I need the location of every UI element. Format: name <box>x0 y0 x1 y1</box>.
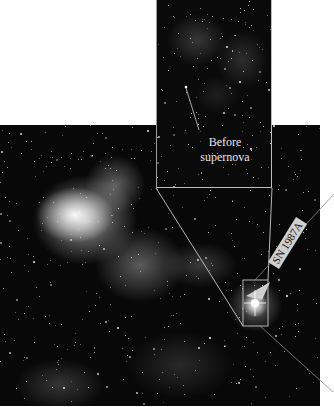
star <box>258 80 259 81</box>
star <box>281 334 282 335</box>
star <box>49 323 50 324</box>
star <box>278 279 280 281</box>
star <box>61 358 62 359</box>
star <box>191 113 192 114</box>
star <box>110 287 111 288</box>
star <box>26 357 28 359</box>
star <box>231 233 232 234</box>
star <box>204 83 205 84</box>
star <box>157 393 158 394</box>
star <box>16 203 17 204</box>
star <box>240 379 241 380</box>
star <box>229 87 231 89</box>
star <box>11 272 12 273</box>
star <box>21 153 22 154</box>
star <box>52 387 53 388</box>
star <box>167 171 168 172</box>
star <box>212 265 213 266</box>
star <box>207 68 208 69</box>
star <box>10 258 11 259</box>
star <box>80 193 81 194</box>
star <box>0 259 1 260</box>
star <box>167 281 168 282</box>
star <box>7 215 8 216</box>
star <box>168 5 169 6</box>
star <box>131 149 132 150</box>
star <box>99 297 100 298</box>
star <box>9 246 10 247</box>
star <box>261 167 262 168</box>
before-label-line1: Before <box>185 135 265 150</box>
star <box>211 60 212 61</box>
star <box>55 325 56 326</box>
star <box>132 127 133 128</box>
star <box>173 134 175 136</box>
star <box>226 85 227 86</box>
star <box>212 16 213 17</box>
star <box>67 349 68 350</box>
star <box>198 174 199 175</box>
star <box>220 58 221 59</box>
star <box>46 380 47 381</box>
star <box>315 250 316 251</box>
star <box>159 379 160 380</box>
star <box>224 68 226 70</box>
star <box>250 190 251 191</box>
star <box>168 213 169 214</box>
star <box>238 382 240 384</box>
star <box>198 114 199 115</box>
star <box>275 335 277 337</box>
star <box>251 25 252 26</box>
star <box>7 167 8 168</box>
star <box>23 360 24 361</box>
star <box>163 402 164 403</box>
star <box>223 167 224 168</box>
star <box>259 71 261 73</box>
star <box>204 200 205 201</box>
star <box>250 369 251 370</box>
star <box>217 57 218 58</box>
star <box>245 22 246 23</box>
star <box>242 101 243 102</box>
star <box>246 337 247 338</box>
star <box>293 179 294 180</box>
star <box>54 344 55 345</box>
star <box>26 141 27 142</box>
star <box>80 344 81 345</box>
star <box>270 29 271 30</box>
star <box>244 207 245 208</box>
star <box>231 382 232 383</box>
star <box>207 28 208 29</box>
star <box>47 264 48 265</box>
star <box>31 149 32 150</box>
star <box>24 265 25 266</box>
star <box>57 221 58 222</box>
star <box>162 90 163 91</box>
star <box>123 379 124 380</box>
star <box>75 333 76 334</box>
star <box>125 285 126 286</box>
star <box>202 19 203 20</box>
star <box>253 9 254 10</box>
star <box>248 5 249 6</box>
star <box>180 323 181 324</box>
star <box>295 174 296 175</box>
star <box>247 95 248 96</box>
star <box>306 229 307 230</box>
star <box>192 42 193 43</box>
star <box>237 333 238 334</box>
star <box>195 370 196 371</box>
star <box>267 15 268 16</box>
star <box>8 142 9 143</box>
star <box>71 401 72 402</box>
star <box>196 112 197 113</box>
star <box>298 134 299 135</box>
star <box>198 118 199 119</box>
star <box>172 227 173 228</box>
star <box>64 166 65 167</box>
star <box>117 327 119 329</box>
star <box>39 296 40 297</box>
star <box>97 373 99 375</box>
star <box>83 151 84 152</box>
star <box>249 27 250 28</box>
